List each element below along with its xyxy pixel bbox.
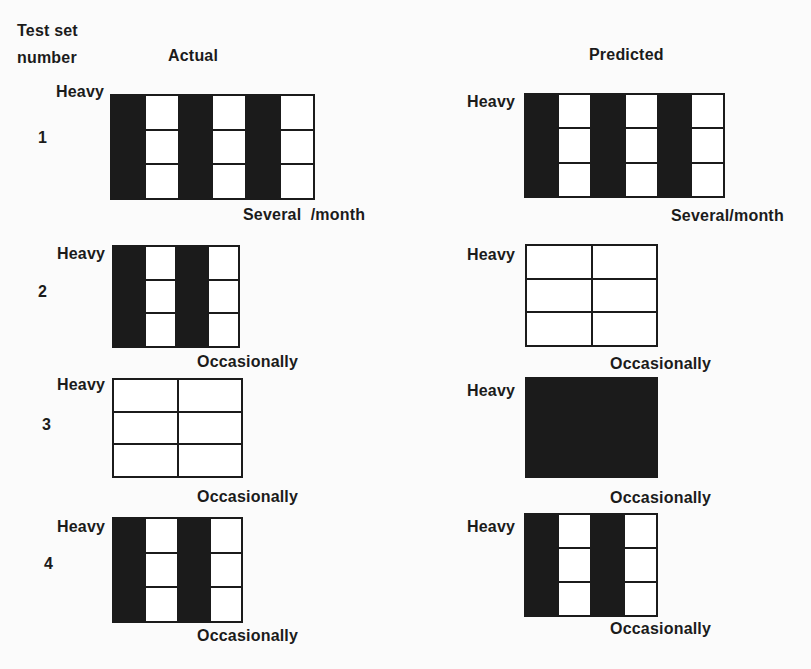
white-column xyxy=(146,247,178,346)
grid-cell xyxy=(211,554,241,589)
grid-cell xyxy=(146,588,176,621)
heavy-label: Heavy xyxy=(57,246,105,263)
white-column xyxy=(146,519,178,621)
bottom-label: Several /month xyxy=(243,207,365,224)
white-column xyxy=(146,96,180,198)
grid-cell xyxy=(179,445,242,476)
test-set-1-actual-grid xyxy=(110,94,315,200)
white-column xyxy=(114,380,179,476)
grid-cell xyxy=(593,246,657,280)
test-set-1-predicted-grid xyxy=(524,93,725,198)
white-column xyxy=(559,95,592,196)
white-column xyxy=(626,95,659,196)
actual-column-header: Actual xyxy=(168,48,218,65)
grid-cell xyxy=(114,380,177,413)
white-column xyxy=(209,247,239,346)
figure-canvas: Test set number Actual Predicted 1 Heavy… xyxy=(0,0,811,669)
test-set-header-line2: number xyxy=(17,50,77,67)
grid-cell xyxy=(213,96,245,131)
heavy-label: Heavy xyxy=(57,377,105,394)
grid-cell xyxy=(146,96,178,131)
grid-cell xyxy=(281,165,313,198)
bottom-label: Occasionally xyxy=(610,356,711,373)
grid-cell xyxy=(179,380,242,413)
black-column xyxy=(592,95,625,196)
white-column xyxy=(211,519,241,621)
grid-cell xyxy=(146,247,176,281)
bottom-label: Occasionally xyxy=(610,621,711,638)
grid-cell xyxy=(209,314,239,346)
grid-cell xyxy=(209,281,239,315)
grid-cell xyxy=(626,95,657,129)
grid-cell xyxy=(559,583,590,615)
heavy-label: Heavy xyxy=(57,519,105,536)
heavy-label: Heavy xyxy=(467,519,515,536)
grid-cell xyxy=(625,515,656,549)
grid-cell xyxy=(559,549,590,583)
grid-cell xyxy=(527,280,591,314)
test-set-4-predicted-grid xyxy=(524,513,658,617)
test-set-4-actual-grid xyxy=(112,517,243,623)
black-column xyxy=(659,95,692,196)
grid-cell xyxy=(559,129,590,163)
white-column xyxy=(625,515,656,615)
grid-cell xyxy=(559,95,590,129)
black-column xyxy=(526,515,559,615)
black-column xyxy=(526,95,559,196)
grid-cell xyxy=(593,280,657,314)
grid-cell xyxy=(209,247,239,281)
white-column xyxy=(559,515,592,615)
test-set-number-1: 1 xyxy=(38,130,47,147)
grid-cell xyxy=(626,164,657,196)
grid-cell xyxy=(146,554,176,589)
test-set-3-predicted-grid xyxy=(525,377,658,478)
grid-cell xyxy=(692,95,723,129)
white-column xyxy=(692,95,723,196)
grid-cell xyxy=(211,519,241,554)
black-column xyxy=(179,519,211,621)
test-set-number-3: 3 xyxy=(42,417,51,434)
grid-cell xyxy=(146,131,178,166)
white-column xyxy=(281,96,313,198)
bottom-label: Occasionally xyxy=(197,628,298,645)
grid-cell xyxy=(114,445,177,476)
grid-cell xyxy=(213,131,245,166)
bottom-label: Occasionally xyxy=(197,354,298,371)
test-set-2-predicted-grid xyxy=(525,244,658,347)
grid-cell xyxy=(211,588,241,621)
grid-cell xyxy=(692,164,723,196)
bottom-label: Several/month xyxy=(671,208,784,225)
black-column xyxy=(112,96,146,198)
grid-cell xyxy=(179,413,242,446)
white-column xyxy=(213,96,247,198)
bottom-label: Occasionally xyxy=(197,489,298,506)
grid-cell xyxy=(626,129,657,163)
predicted-column-header: Predicted xyxy=(589,47,664,64)
test-set-3-actual-grid xyxy=(112,378,243,478)
grid-cell xyxy=(527,246,591,280)
black-column xyxy=(247,96,281,198)
white-column xyxy=(593,246,657,345)
black-column xyxy=(114,519,146,621)
grid-cell xyxy=(527,313,591,345)
grid-cell xyxy=(114,413,177,446)
black-column xyxy=(180,96,214,198)
white-column xyxy=(527,246,593,345)
grid-cell xyxy=(213,165,245,198)
black-column xyxy=(592,515,625,615)
grid-cell xyxy=(692,129,723,163)
black-column xyxy=(177,247,209,346)
grid-cell xyxy=(625,583,656,615)
test-set-header-line1: Test set xyxy=(17,23,78,40)
heavy-label: Heavy xyxy=(56,84,104,101)
grid-cell xyxy=(559,164,590,196)
grid-cell xyxy=(146,281,176,315)
black-column xyxy=(114,247,146,346)
grid-cell xyxy=(281,131,313,166)
test-set-number-2: 2 xyxy=(38,284,47,301)
test-set-2-actual-grid xyxy=(112,245,240,348)
grid-cell xyxy=(593,313,657,345)
heavy-label: Heavy xyxy=(467,383,515,400)
grid-cell xyxy=(146,165,178,198)
heavy-label: Heavy xyxy=(467,94,515,111)
